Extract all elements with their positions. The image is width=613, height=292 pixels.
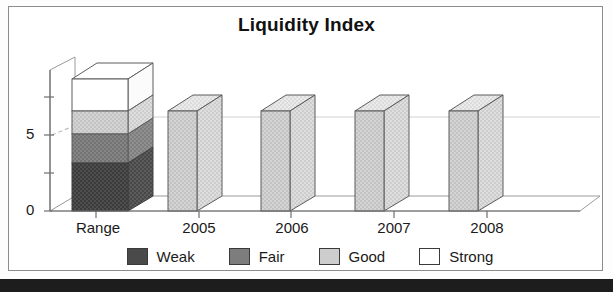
bar-2006-front-face xyxy=(261,111,290,211)
bar-2005-front-face xyxy=(168,111,197,211)
y-axis-ticks xyxy=(44,97,54,211)
bar-2005-side-face xyxy=(197,95,222,211)
chart-frame: Liquidity Index xyxy=(0,0,613,292)
legend-item-good: Good xyxy=(319,248,386,265)
bar-2006 xyxy=(261,95,315,211)
legend-label-fair: Fair xyxy=(259,248,285,265)
legend-item-fair: Fair xyxy=(229,248,285,265)
bar-range-fair-front xyxy=(72,134,128,163)
bar-2007-side-face xyxy=(384,95,409,211)
legend-swatch-good-icon xyxy=(319,248,340,265)
y-axis-label-0: 0 xyxy=(26,201,34,218)
x-axis-ticks xyxy=(96,211,487,218)
bar-range-good-front xyxy=(72,111,128,134)
bar-2008-front-face xyxy=(449,111,478,211)
chart-legend: Weak Fair Good Strong xyxy=(40,243,580,269)
scan-edge-artifact xyxy=(0,279,613,292)
y-axis-label-5: 5 xyxy=(26,125,34,142)
bar-2007 xyxy=(355,95,409,211)
legend-label-strong: Strong xyxy=(449,248,493,265)
legend-item-weak: Weak xyxy=(127,248,195,265)
x-axis-label-2005: 2005 xyxy=(157,219,241,236)
bar-range-weak-front xyxy=(72,163,128,211)
bar-2007-front-face xyxy=(355,111,384,211)
legend-swatch-weak-icon xyxy=(127,248,148,265)
x-axis-label-range: Range xyxy=(56,219,140,236)
bar-2008 xyxy=(449,95,503,211)
bar-range-stacked xyxy=(72,63,153,211)
bar-2006-side-face xyxy=(290,95,315,211)
x-axis-label-2006: 2006 xyxy=(250,219,334,236)
legend-swatch-fair-icon xyxy=(229,248,250,265)
legend-label-good: Good xyxy=(349,248,386,265)
bar-range-strong-front xyxy=(72,79,128,111)
x-axis-label-2008: 2008 xyxy=(445,219,529,236)
legend-swatch-strong-icon xyxy=(419,248,440,265)
bar-2005 xyxy=(168,95,222,211)
bar-2008-side-face xyxy=(478,95,503,211)
legend-item-strong: Strong xyxy=(419,248,493,265)
x-axis-label-2007: 2007 xyxy=(352,219,436,236)
legend-label-weak: Weak xyxy=(157,248,195,265)
